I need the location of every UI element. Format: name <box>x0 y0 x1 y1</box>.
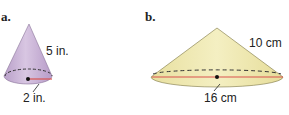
cone-b-diameter-label: 16 cm <box>204 91 237 105</box>
figure-b-label: b. <box>145 9 155 25</box>
cone-a-body <box>4 24 52 84</box>
figure-a-label: a. <box>1 9 11 25</box>
cone-a-slant-height-label: 5 in. <box>46 44 69 58</box>
cone-b-center-point <box>215 75 219 79</box>
cone-a <box>4 24 52 92</box>
cone-a-radius-label: 2 in. <box>23 91 46 105</box>
cone-b-slant-height-label: 10 cm <box>249 36 282 50</box>
cone-a-center-point <box>26 77 30 81</box>
